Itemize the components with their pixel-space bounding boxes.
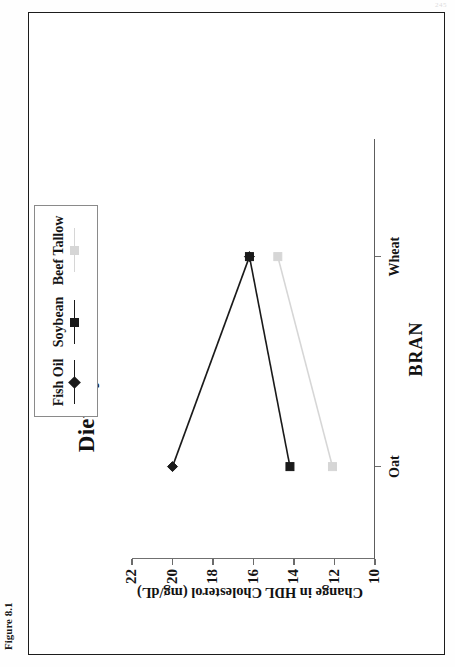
series-line (278, 257, 333, 467)
legend-label: Soybean (51, 297, 67, 348)
x-axis-tick (375, 256, 381, 257)
y-axis-title: Change in HDL Cholesterol (mg/dL) (90, 584, 410, 601)
figure-caption: Figure 8.1 (2, 594, 14, 650)
data-point-marker (328, 463, 336, 471)
data-point-marker (286, 463, 294, 471)
legend-entry: Soybean (35, 297, 97, 348)
series-layer (132, 139, 375, 559)
data-point-marker (274, 253, 282, 261)
page-number: 245 (435, 1, 447, 9)
legend-label: Beef Tallow (51, 216, 67, 286)
x-axis-tick (375, 466, 381, 467)
diamond-marker-icon (68, 377, 81, 390)
legend-swatch (68, 360, 81, 404)
data-point-marker (245, 253, 253, 261)
square-marker-icon (70, 318, 79, 327)
y-axis-tick (131, 559, 132, 565)
x-axis-tick-label: Wheat (387, 217, 403, 297)
legend-entry: Beef Tallow (35, 216, 97, 286)
plot-area: 22201816141210OatWheat (132, 139, 375, 559)
y-axis-tick (212, 559, 213, 565)
scanned-figure-page: 245 Figure 8.1 Dietary Fibers and Oils F… (0, 0, 455, 667)
square-marker-icon (70, 246, 79, 255)
x-axis-title: BRAN (406, 139, 427, 559)
x-axis-tick-label: Oat (387, 427, 403, 507)
legend-label: Fish Oil (51, 358, 67, 406)
legend-swatch (68, 300, 81, 344)
y-axis-tick (293, 559, 294, 565)
rotated-chart-container: Dietary Fibers and Oils Fish OilSoybeanB… (28, 12, 445, 655)
y-axis-tick (253, 559, 254, 565)
data-point-marker (168, 462, 178, 472)
chart-legend: Fish OilSoybeanBeef Tallow (34, 205, 98, 417)
series-line (173, 257, 250, 467)
y-axis-tick (172, 559, 173, 565)
y-axis-tick (334, 559, 335, 565)
y-axis-tick (374, 559, 375, 565)
legend-swatch (68, 228, 81, 272)
legend-entry: Fish Oil (35, 358, 97, 406)
chart: Dietary Fibers and Oils Fish OilSoybeanB… (28, 12, 445, 655)
series-line (249, 257, 290, 467)
